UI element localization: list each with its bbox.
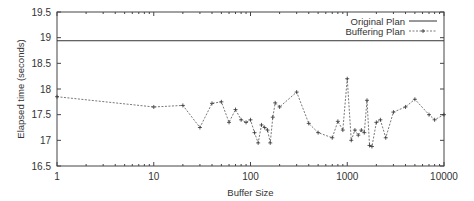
y-tick-label: 17.5 xyxy=(32,109,52,120)
plus-marker-icon xyxy=(268,141,272,145)
plus-marker-icon xyxy=(244,120,248,124)
x-tick-label: 10000 xyxy=(430,171,458,182)
y-tick-label: 18.5 xyxy=(32,58,52,69)
plus-marker-icon xyxy=(374,120,378,124)
plus-marker-icon xyxy=(365,98,369,102)
y-tick-label: 18 xyxy=(40,84,52,95)
plus-marker-icon xyxy=(421,29,425,33)
plus-marker-icon xyxy=(152,105,156,109)
plus-marker-icon xyxy=(295,90,299,94)
plus-marker-icon xyxy=(273,101,277,105)
y-axis-label: Elapsed time (seconds) xyxy=(15,39,26,138)
plus-marker-icon xyxy=(181,103,185,107)
x-tick-label: 10 xyxy=(148,171,160,182)
plus-marker-icon xyxy=(330,136,334,140)
plus-marker-icon xyxy=(336,119,340,123)
plus-marker-icon xyxy=(55,95,59,99)
plus-marker-icon xyxy=(349,138,353,142)
chart: 16.51717.51818.51919.5110100100010000Buf… xyxy=(0,0,474,201)
x-tick-label: 1 xyxy=(54,171,60,182)
plus-marker-icon xyxy=(442,113,446,117)
plus-marker-icon xyxy=(234,108,238,112)
plus-marker-icon xyxy=(353,128,357,132)
plus-marker-icon xyxy=(219,100,223,104)
y-tick-label: 16.5 xyxy=(32,161,52,172)
plus-marker-icon xyxy=(256,141,260,145)
plus-marker-icon xyxy=(227,120,231,124)
y-tick-label: 17 xyxy=(40,135,52,146)
plus-marker-icon xyxy=(341,128,345,132)
plus-marker-icon xyxy=(253,131,257,135)
plus-marker-icon xyxy=(427,113,431,117)
legend-label: Buffering Plan xyxy=(345,26,405,37)
plus-marker-icon xyxy=(210,101,214,105)
plus-marker-icon xyxy=(378,118,382,122)
plus-marker-icon xyxy=(433,118,437,122)
plus-marker-icon xyxy=(345,77,349,81)
y-tick-label: 19.5 xyxy=(32,7,52,18)
plus-marker-icon xyxy=(249,118,253,122)
plus-marker-icon xyxy=(316,131,320,135)
plus-marker-icon xyxy=(239,118,243,122)
plus-marker-icon xyxy=(384,136,388,140)
plus-marker-icon xyxy=(356,133,360,137)
plus-marker-icon xyxy=(271,115,275,119)
x-tick-label: 1000 xyxy=(336,171,359,182)
plus-marker-icon xyxy=(413,97,417,101)
plus-marker-icon xyxy=(391,110,395,114)
x-tick-label: 100 xyxy=(242,171,259,182)
y-tick-label: 19 xyxy=(40,32,52,43)
x-axis-label: Buffer Size xyxy=(227,187,273,198)
